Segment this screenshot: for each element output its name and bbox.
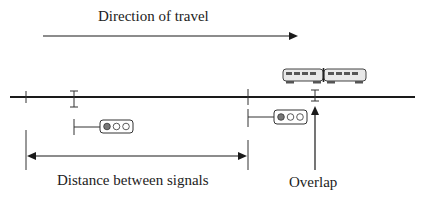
overlap-arrow xyxy=(311,106,319,170)
stop-marker-1 xyxy=(70,91,78,107)
train-icon xyxy=(283,68,366,84)
railway-signal-diagram xyxy=(0,0,424,204)
signal-2-lamp-2 xyxy=(287,114,294,121)
stop-marker-2 xyxy=(311,90,319,101)
signal-2-lamp-3 xyxy=(297,114,304,121)
signal-1-lamp-2 xyxy=(113,123,120,130)
signal-1 xyxy=(74,119,133,135)
signal-1-lamp-red xyxy=(104,123,111,130)
direction-arrow xyxy=(43,32,298,40)
signal-2-lamp-red xyxy=(278,114,285,121)
signal-2 xyxy=(248,109,307,127)
signal-1-lamp-3 xyxy=(123,123,130,130)
distance-dimension xyxy=(26,130,248,170)
